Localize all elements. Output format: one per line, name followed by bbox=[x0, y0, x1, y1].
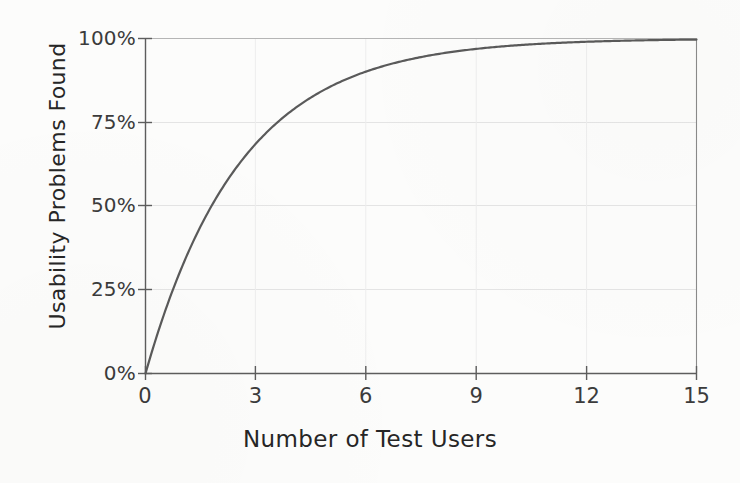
x-tick-label-12: 12 bbox=[573, 386, 600, 407]
y-tick-label-75: 75% bbox=[91, 112, 136, 132]
horizontal-gridlines bbox=[145, 39, 697, 290]
x-axis-title: Number of Test Users bbox=[243, 426, 497, 452]
y-tick-label-0: 0% bbox=[104, 363, 136, 383]
x-tick-label-9: 9 bbox=[470, 386, 483, 407]
usability-curve-line bbox=[146, 40, 697, 374]
x-tick-label-3: 3 bbox=[249, 386, 262, 407]
y-axis-title: Usability Problems Found bbox=[45, 42, 70, 329]
y-axis-title-wrapper: Usability Problems Found bbox=[37, 21, 77, 351]
x-axis-tick-labels: 0 3 6 9 12 15 bbox=[0, 386, 740, 420]
x-axis-title-wrapper: Number of Test Users bbox=[0, 426, 740, 452]
y-tick-label-50: 50% bbox=[91, 195, 136, 215]
x-tick-label-6: 6 bbox=[359, 386, 372, 407]
chart-page: 100% 75% 50% 25% 0% 0 3 6 9 12 15 Usabil… bbox=[0, 0, 740, 483]
x-tick-label-15: 15 bbox=[683, 386, 710, 407]
y-tick-label-100: 100% bbox=[78, 28, 136, 48]
x-tick-label-0: 0 bbox=[138, 386, 151, 407]
y-tick-label-25: 25% bbox=[91, 279, 136, 299]
